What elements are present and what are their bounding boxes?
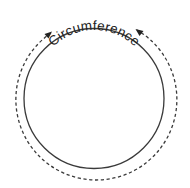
circumference-dashed-arc [16,30,177,180]
circumference-label-text: Circumference [45,18,143,49]
circle [24,29,164,169]
circumference-diagram: Circumference [0,0,190,188]
circumference-label: Circumference [45,18,143,49]
